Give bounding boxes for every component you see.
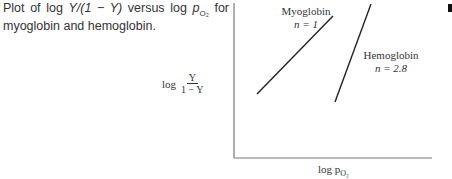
page-edge-marker (448, 4, 452, 12)
y-axis-label: log Y 1 − Y (162, 72, 204, 95)
y-label-log: log (162, 78, 176, 90)
y-label-fraction: Y 1 − Y (181, 72, 204, 95)
y-label-denominator: 1 − Y (181, 84, 204, 95)
hemoglobin-label: Hemoglobin n = 2.8 (355, 49, 427, 75)
x-axis-label: log pO₂ (318, 163, 349, 178)
hemoglobin-name: Hemoglobin (355, 49, 427, 62)
myoglobin-name: Myoglobin (276, 5, 336, 18)
y-label-numerator: Y (187, 72, 198, 84)
myoglobin-label: Myoglobin n = 1 (276, 5, 336, 31)
x-label-text: log p (318, 163, 340, 175)
myoglobin-n: n = 1 (276, 18, 336, 31)
hemoglobin-n: n = 2.8 (355, 62, 427, 75)
x-label-sub: O₂ (340, 169, 349, 178)
